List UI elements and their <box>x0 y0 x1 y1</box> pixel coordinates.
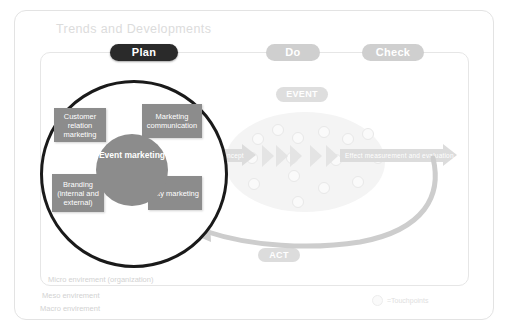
pdca-pill-check[interactable]: Check <box>362 44 424 61</box>
quadrant-box-branding[interactable]: Branding (internal and external) <box>52 174 104 212</box>
quadrant-box-customer-relation-marketing[interactable]: Customer relation marketing <box>54 108 106 142</box>
legend: =Touchpoints <box>372 295 428 306</box>
circle-outline-icon <box>372 295 383 306</box>
quadrant-box-marketing-communication[interactable]: Marketing communication <box>142 104 202 138</box>
event-badge: EVENT <box>276 87 328 102</box>
environment-label-micro: Micro envirement (organization) <box>48 275 153 284</box>
page-title: Trends and Developments <box>56 22 211 36</box>
pdca-pill-plan[interactable]: Plan <box>110 44 178 61</box>
touchpoint-dot <box>272 124 284 136</box>
touchpoint-dot <box>318 126 330 138</box>
diagram-canvas: Trends and Developments Plan Do Check AC… <box>0 0 506 330</box>
environment-label-meso: Meso envirement <box>42 291 100 300</box>
touchpoint-dot <box>362 128 374 140</box>
event-marketing-core-label: Event marketing <box>96 150 168 160</box>
pdca-pill-do[interactable]: Do <box>266 44 320 61</box>
event-marketing-core-circle <box>96 134 168 206</box>
touchpoint-dot <box>342 133 354 145</box>
environment-label-macro: Macro envirement <box>40 304 100 313</box>
touchpoint-dot <box>292 132 304 144</box>
legend-label: =Touchpoints <box>387 297 428 304</box>
